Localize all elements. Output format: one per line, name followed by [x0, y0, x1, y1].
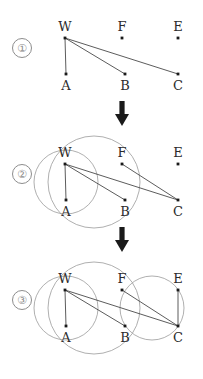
graph-panel-3: WFEABC③	[0, 252, 203, 378]
edge-F-C	[122, 164, 178, 200]
node-dot-C	[177, 325, 180, 328]
node-label-A: A	[60, 204, 71, 219]
node-label-W: W	[58, 19, 72, 34]
node-label-B: B	[120, 78, 130, 93]
node-dot-E	[177, 289, 180, 292]
node-label-C: C	[173, 330, 183, 345]
arrow-shaft	[119, 101, 124, 115]
node-dot-C	[177, 199, 180, 202]
node-label-C: C	[173, 204, 183, 219]
step-badge-2: ②	[12, 164, 32, 184]
node-label-B: B	[120, 330, 130, 345]
edge-W-C	[65, 290, 178, 326]
node-dot-W	[64, 289, 67, 292]
arrow-head	[115, 240, 129, 252]
graph-drawing-3: WFEABC	[0, 252, 203, 378]
node-dot-E	[177, 37, 180, 40]
node-label-F: F	[117, 145, 126, 160]
node-label-E: E	[173, 271, 183, 286]
edge-W-A	[65, 164, 66, 200]
arrow-2-to-3	[0, 225, 203, 255]
figure-canvas: WFEABC①WFEABC②WFEABC③	[0, 0, 203, 379]
arrow-head	[115, 114, 129, 126]
arrow-1-to-2	[0, 99, 203, 129]
edge-W-B	[65, 38, 125, 74]
edge-W-C	[65, 38, 178, 74]
node-label-C: C	[173, 78, 183, 93]
node-dot-W	[64, 37, 67, 40]
node-label-E: E	[173, 145, 183, 160]
edge-W-A	[65, 38, 66, 74]
node-dot-E	[177, 163, 180, 166]
node-label-A: A	[60, 78, 71, 93]
arrow-shaft	[119, 227, 124, 241]
down-arrow-icon	[0, 99, 203, 129]
node-dot-A	[65, 199, 68, 202]
node-dot-C	[177, 73, 180, 76]
edge-F-C	[122, 290, 178, 326]
node-dot-F	[121, 163, 124, 166]
node-label-F: F	[117, 19, 126, 34]
down-arrow-icon	[0, 225, 203, 255]
node-label-F: F	[117, 271, 126, 286]
node-label-B: B	[120, 204, 130, 219]
edge-W-A	[65, 290, 66, 326]
node-label-W: W	[58, 145, 72, 160]
node-label-W: W	[58, 271, 72, 286]
edge-W-C	[65, 164, 178, 200]
node-label-A: A	[60, 330, 71, 345]
node-dot-F	[121, 37, 124, 40]
step-badge-3: ③	[12, 290, 32, 310]
node-dot-F	[121, 289, 124, 292]
node-dot-W	[64, 163, 67, 166]
node-dot-A	[65, 325, 68, 328]
node-dot-A	[65, 73, 68, 76]
node-dot-B	[124, 325, 127, 328]
node-dot-B	[124, 199, 127, 202]
step-badge-1: ①	[12, 38, 32, 58]
node-dot-B	[124, 73, 127, 76]
node-label-E: E	[173, 19, 183, 34]
